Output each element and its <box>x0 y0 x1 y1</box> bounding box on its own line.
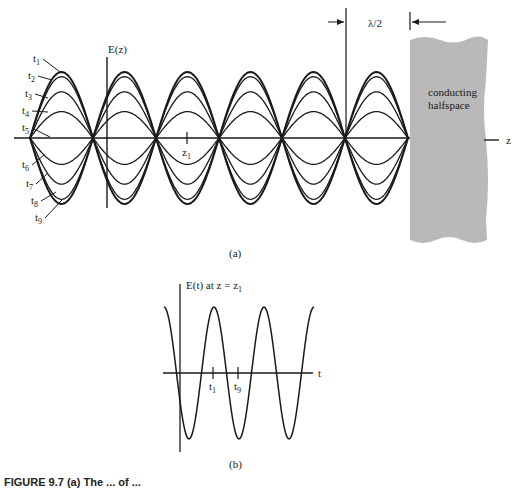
t-axis-label: t <box>318 367 321 379</box>
leader-line <box>38 76 52 80</box>
e-t-axis-label: E(t) at z = z1 <box>186 279 242 294</box>
region-label-line2: halfspace <box>428 99 470 111</box>
time-labels: t1t2t3t4t5t6t7t8t9 <box>22 52 62 226</box>
time-label-t2: t2 <box>28 69 35 84</box>
conducting-halfspace-region <box>410 36 488 243</box>
figure-canvas: conducting halfspace z E(z) z1 λ/2 t1t2t… <box>0 0 529 488</box>
t9-label: t9 <box>234 380 241 395</box>
figure-caption: FIGURE 9.7 (a) The ... of ... <box>4 476 141 488</box>
time-label-t4: t4 <box>22 104 29 119</box>
time-label-t7: t7 <box>26 177 33 192</box>
region-label-line1: conducting <box>428 86 477 98</box>
t1-label: t1 <box>209 380 216 395</box>
leader-line <box>32 111 48 112</box>
panel-a-label: (a) <box>229 247 242 260</box>
e-axis-label: E(z) <box>108 43 127 56</box>
time-label-t8: t8 <box>31 194 38 209</box>
panel-a: conducting halfspace z E(z) z1 λ/2 t1t2t… <box>14 8 511 260</box>
leader-line <box>45 200 62 218</box>
z-axis-label: z <box>506 134 511 146</box>
time-label-t9: t9 <box>35 211 42 226</box>
time-label-t6: t6 <box>22 158 29 173</box>
leader-line <box>43 59 60 72</box>
time-label-t1: t1 <box>33 52 40 67</box>
time-label-t5: t5 <box>22 121 29 136</box>
panel-b-label: (b) <box>229 458 242 471</box>
time-label-t3: t3 <box>25 87 32 102</box>
panel-b: E(t) at z = z1 t t1 t9 (b) <box>163 279 321 471</box>
z1-label: z1 <box>182 146 191 161</box>
half-wavelength-label: λ/2 <box>368 17 382 29</box>
